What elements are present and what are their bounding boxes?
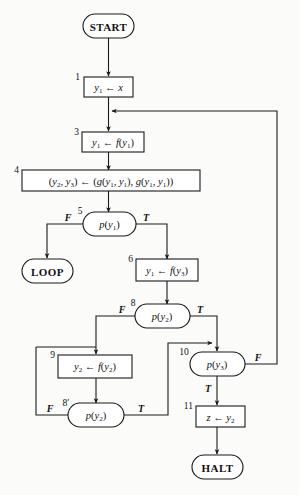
node-9: 9 y2 ← f(y2) <box>50 350 132 378</box>
halt-label: HALT <box>202 462 234 474</box>
node-11-number: 11 <box>184 401 193 411</box>
start-label: START <box>90 21 128 33</box>
node-loop: LOOP <box>22 259 73 283</box>
node-10-false-label: F <box>254 352 262 363</box>
node-start: START <box>83 14 134 38</box>
node-8-prime: 8′ p(y2) F T <box>46 398 145 427</box>
edge-5-false-to-loop <box>47 224 83 258</box>
node-3-number: 3 <box>74 127 79 137</box>
edge-8-false-to-9 <box>96 316 135 347</box>
node-10-true-label: T <box>205 383 212 394</box>
node-6: 6 y1 ← f(y3) <box>128 254 198 281</box>
edge-8-true-to-10 <box>190 316 217 351</box>
node-8-false-label: F <box>118 304 126 315</box>
node-5: 5 p(y1) F T <box>64 206 150 236</box>
node-8-prime-true-label: T <box>138 403 145 414</box>
node-11: 11 z ← y2 <box>184 401 245 427</box>
node-5-number: 5 <box>78 206 83 216</box>
flowchart-figure: START 1 y1 ← x 3 y1 ← f(y1) 4 (y2, y3) ←… <box>0 0 299 495</box>
node-8-number: 8 <box>131 298 136 308</box>
node-10-number: 10 <box>179 347 189 357</box>
node-9-number: 9 <box>50 350 55 360</box>
node-10: 10 p(y3) F T <box>179 347 261 394</box>
node-6-number: 6 <box>128 254 133 264</box>
node-halt: HALT <box>192 455 243 479</box>
loop-label: LOOP <box>31 266 64 278</box>
node-5-true-label: T <box>143 212 150 223</box>
node-1-number: 1 <box>75 72 80 82</box>
node-8-prime-false-label: F <box>46 403 54 414</box>
node-8-true-label: T <box>197 304 204 315</box>
node-8: 8 p(y2) F T <box>118 298 204 328</box>
edge-5-true-to-6 <box>136 224 167 259</box>
edge-layer <box>36 38 277 454</box>
node-4-number: 4 <box>14 165 19 175</box>
node-3: 3 y1 ← f(y1) <box>74 127 144 152</box>
flowchart-canvas: START 1 y1 ← x 3 y1 ← f(y1) 4 (y2, y3) ←… <box>0 0 299 495</box>
node-1: 1 y1 ← x <box>75 72 133 97</box>
node-5-false-label: F <box>64 212 72 223</box>
node-8-prime-number: 8′ <box>63 398 70 408</box>
node-4: 4 (y2, y3) ← (g(y1, y1), g(y1, y1)) <box>14 165 200 191</box>
